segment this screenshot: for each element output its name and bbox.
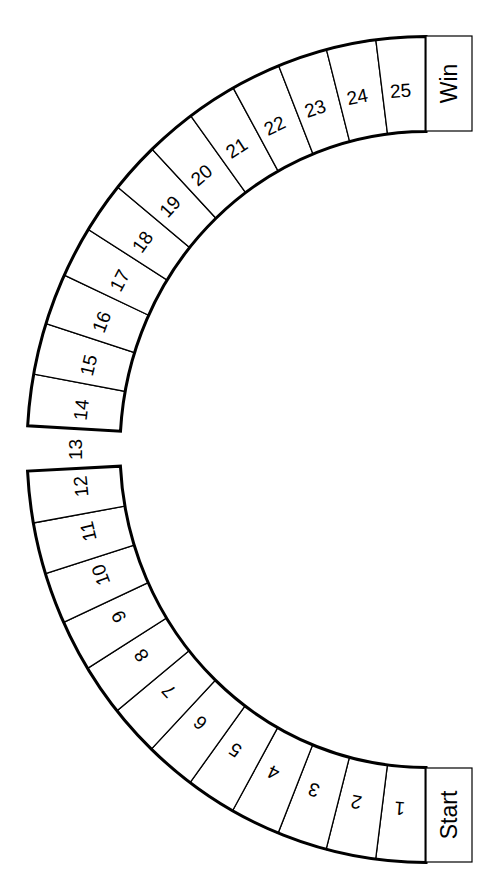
win-label: Win <box>436 64 462 104</box>
space-label: 14 <box>70 398 93 422</box>
space-label: 25 <box>389 79 412 101</box>
start-label: Start <box>436 790 462 839</box>
game-board: 123456789101112 141516171819202122232425… <box>0 0 490 875</box>
top-track: 141516171819202122232425 <box>28 37 426 432</box>
start-space[interactable]: Start <box>426 768 472 862</box>
space-13-label[interactable]: 13 <box>65 439 86 460</box>
space-label: 12 <box>69 475 92 498</box>
space-label: 1 <box>394 797 406 819</box>
bottom-track: 123456789101112 <box>28 466 426 862</box>
win-space[interactable]: Win <box>426 36 472 131</box>
